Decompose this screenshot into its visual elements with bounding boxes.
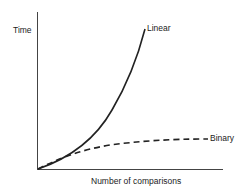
binary-curve: [38, 139, 208, 169]
x-axis-label: Number of comparisons: [91, 176, 181, 186]
linear-curve: [38, 29, 145, 169]
y-axis-label: Time: [13, 25, 32, 35]
chart-canvas: [0, 0, 246, 193]
linear-series-label: Linear: [147, 23, 171, 33]
binary-series-label: Binary: [210, 133, 234, 143]
